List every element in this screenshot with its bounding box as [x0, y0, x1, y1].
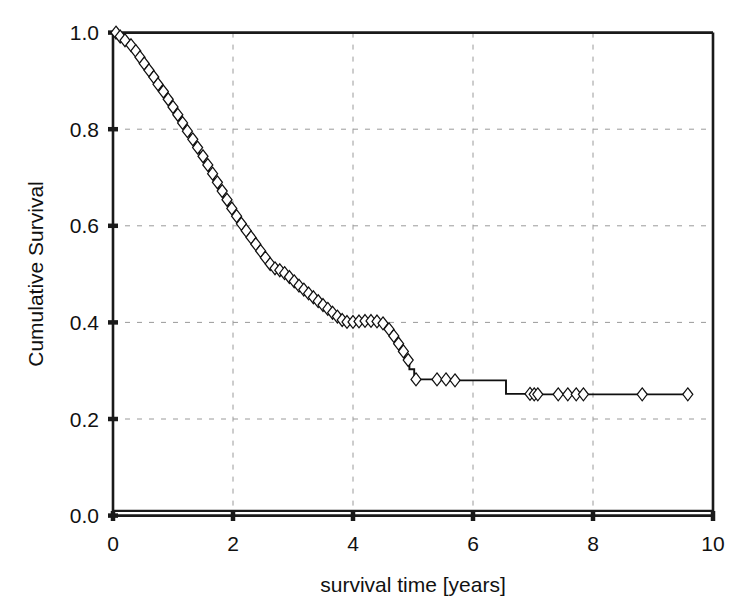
xtick-label-4: 4 [347, 532, 359, 555]
xtick-label-2: 2 [227, 532, 239, 555]
censored-marker [683, 388, 693, 401]
y-axis-title: Cumulative Survival [24, 181, 47, 367]
x-axis-tick-labels: 0 2 4 6 8 10 [107, 532, 725, 555]
ytick-label-0.0: 0.0 [70, 504, 99, 527]
horizontal-gridlines [113, 129, 713, 419]
ytick-label-0.4: 0.4 [70, 311, 100, 334]
censored-marker [578, 388, 588, 401]
chart-svg: 1.0 0.8 0.6 0.4 0.2 0.0 0 2 4 6 8 10 sur… [0, 0, 754, 608]
survival-chart-figure: 1.0 0.8 0.6 0.4 0.2 0.0 0 2 4 6 8 10 sur… [0, 0, 754, 608]
censored-markers-group [111, 26, 693, 401]
censored-marker [553, 388, 563, 401]
ytick-label-1.0: 1.0 [70, 21, 99, 44]
ytick-label-0.2: 0.2 [70, 408, 99, 431]
censored-marker [411, 373, 421, 386]
plot-frame [113, 33, 713, 516]
xtick-label-10: 10 [701, 532, 724, 555]
xtick-label-6: 6 [467, 532, 479, 555]
censored-marker [450, 374, 460, 387]
xtick-label-8: 8 [587, 532, 599, 555]
x-axis-title: survival time [years] [320, 573, 506, 596]
censored-marker [441, 373, 451, 386]
ytick-label-0.8: 0.8 [70, 118, 99, 141]
ytick-label-0.6: 0.6 [70, 214, 99, 237]
xtick-label-0: 0 [107, 532, 119, 555]
censored-marker [637, 388, 647, 401]
y-axis-tick-labels: 1.0 0.8 0.6 0.4 0.2 0.0 [70, 21, 100, 527]
